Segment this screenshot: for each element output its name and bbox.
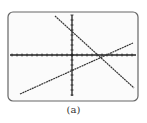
figure-caption: (a) (0, 104, 147, 115)
